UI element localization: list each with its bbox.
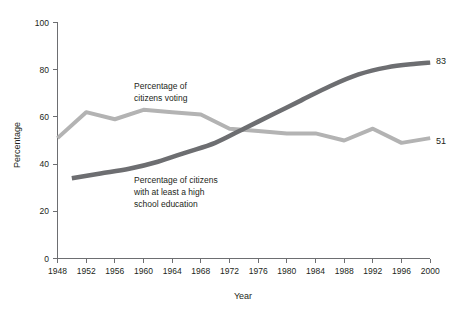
annotation-voting-line2: citizens voting bbox=[134, 93, 188, 103]
x-tick-label: 1976 bbox=[249, 266, 268, 276]
annotation-voting-line1: Percentage of bbox=[134, 81, 188, 91]
x-tick-label: 1988 bbox=[335, 266, 354, 276]
x-tick-label: 1948 bbox=[48, 266, 67, 276]
y-tick-label: 100 bbox=[35, 18, 49, 28]
y-tick-label: 40 bbox=[40, 159, 50, 169]
x-tick-label: 1992 bbox=[363, 266, 382, 276]
annotation-education-line1: Percentage of citizens bbox=[134, 175, 218, 185]
y-tick-label: 0 bbox=[44, 254, 49, 264]
x-tick-label: 1980 bbox=[277, 266, 296, 276]
x-tick-label: 2000 bbox=[421, 266, 440, 276]
x-tick-label: 1960 bbox=[134, 266, 153, 276]
x-tick-label: 1952 bbox=[77, 266, 96, 276]
x-tick-label: 1968 bbox=[191, 266, 210, 276]
y-axis-title: Percentage bbox=[12, 122, 22, 168]
chart-figure: 100 80 60 40 20 0 1948 1952 bbox=[0, 0, 459, 317]
annotation-education-line3: school education bbox=[134, 199, 198, 209]
chart-canvas: 100 80 60 40 20 0 1948 1952 bbox=[0, 0, 459, 317]
x-tick-label: 1996 bbox=[392, 266, 411, 276]
y-tick-label: 20 bbox=[40, 206, 50, 216]
x-tick-label: 1956 bbox=[105, 266, 124, 276]
x-tick-label: 1984 bbox=[306, 266, 325, 276]
y-tick-label: 80 bbox=[40, 65, 50, 75]
x-axis-title: Year bbox=[234, 291, 252, 301]
end-label-voting: 51 bbox=[436, 136, 446, 146]
annotation-education-line2: with at least a high bbox=[133, 187, 205, 197]
x-tick-label: 1972 bbox=[220, 266, 239, 276]
end-label-education: 83 bbox=[436, 56, 446, 66]
y-tick-label: 60 bbox=[40, 112, 50, 122]
x-tick-label: 1964 bbox=[163, 266, 182, 276]
